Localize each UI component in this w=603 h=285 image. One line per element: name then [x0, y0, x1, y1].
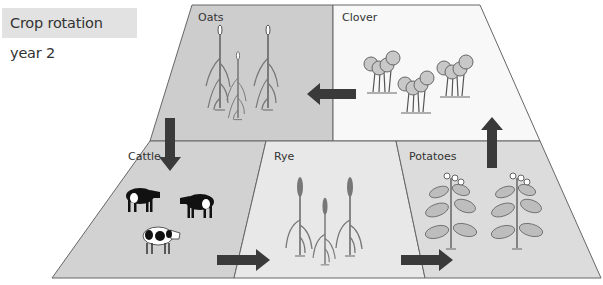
field-label-cattle: Cattle [128, 150, 161, 163]
field-clover [333, 5, 540, 141]
field-label-rye: Rye [274, 150, 295, 163]
field-label-oats: Oats [198, 11, 224, 24]
field-label-potatoes: Potatoes [409, 150, 457, 163]
crop-rotation-diagram: Oats Clover Cattle Rye Potatoes [0, 0, 603, 285]
field-label-clover: Clover [342, 11, 378, 24]
field-oats [150, 5, 333, 141]
